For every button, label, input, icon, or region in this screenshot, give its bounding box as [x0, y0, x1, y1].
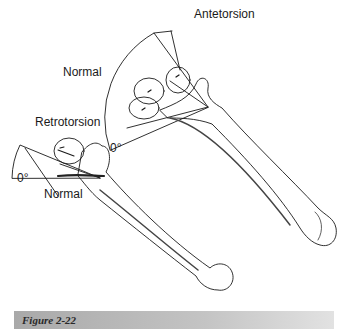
label-zero-upper: 0°: [110, 142, 121, 154]
label-zero-lower: 0°: [17, 172, 28, 184]
figure-caption: Figure 2-22: [22, 314, 76, 326]
label-normal-upper: Normal: [63, 66, 102, 78]
femur-illustration: [0, 0, 348, 305]
caption-bar: Figure 2-22: [14, 311, 334, 329]
femoral-torsion-diagram: Antetorsion Normal 0° Retrotorsion 0° No…: [0, 0, 348, 305]
label-antetorsion: Antetorsion: [194, 8, 255, 20]
label-retrotorsion: Retrotorsion: [35, 116, 100, 128]
label-normal-lower: Normal: [44, 188, 83, 200]
